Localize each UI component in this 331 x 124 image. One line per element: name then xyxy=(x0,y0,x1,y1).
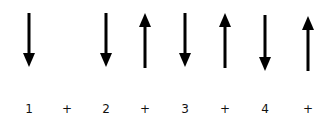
column-5: 3 xyxy=(170,0,200,124)
column-label: + xyxy=(130,101,160,117)
column-label: + xyxy=(210,101,240,117)
column-label: + xyxy=(293,101,323,117)
column-6: + xyxy=(210,0,240,124)
column-7: 4 xyxy=(250,0,280,124)
arrow-down-icon xyxy=(250,0,280,80)
column-1: 1 xyxy=(14,0,44,124)
column-label: 4 xyxy=(250,101,280,117)
arrow-down-icon xyxy=(14,0,44,80)
arrow-up-icon xyxy=(210,0,240,80)
arrow-down-icon xyxy=(170,0,200,80)
column-4: + xyxy=(130,0,160,124)
arrow-up-icon xyxy=(293,0,323,80)
spin-arrow-diagram: 1 + 2 + 3 + 4 + xyxy=(0,0,331,124)
column-8: + xyxy=(293,0,323,124)
column-label: 2 xyxy=(91,101,121,117)
arrow-down-icon xyxy=(91,0,121,80)
arrow-up-icon xyxy=(130,0,160,80)
column-label: + xyxy=(52,101,82,117)
column-2: + xyxy=(52,0,82,124)
column-label: 1 xyxy=(14,101,44,117)
column-3: 2 xyxy=(91,0,121,124)
column-label: 3 xyxy=(170,101,200,117)
empty-arrow-slot xyxy=(52,0,82,80)
